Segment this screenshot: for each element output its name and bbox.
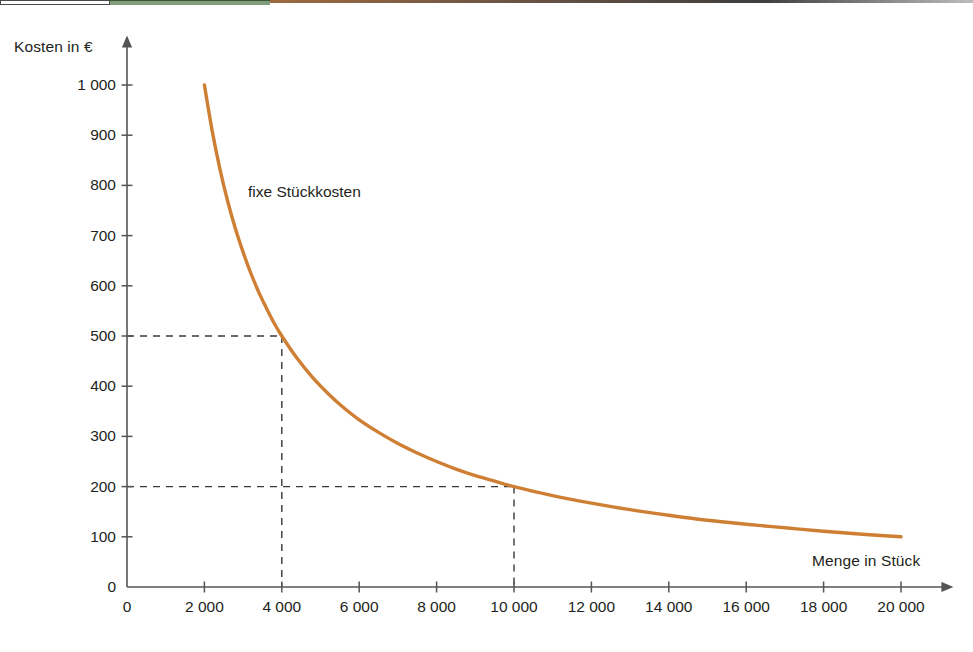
series-line-fixe-stueckkosten bbox=[204, 85, 901, 537]
x-tick-label: 18 000 bbox=[800, 598, 847, 616]
y-tick-label: 900 bbox=[20, 126, 116, 144]
y-tick-label: 0 bbox=[20, 578, 116, 596]
y-tick-label: 400 bbox=[20, 377, 116, 395]
y-tick-label: 100 bbox=[20, 528, 116, 546]
guide-lines-layer bbox=[127, 336, 514, 587]
y-tick-label: 200 bbox=[20, 478, 116, 496]
chart-figure: Kosten in € Menge in Stück fixe Stückkos… bbox=[0, 0, 973, 652]
x-tick-label: 14 000 bbox=[645, 598, 692, 616]
y-tick-label: 1 000 bbox=[20, 76, 116, 94]
x-tick-label: 0 bbox=[123, 598, 132, 616]
x-tick-label: 20 000 bbox=[877, 598, 924, 616]
x-tick-label: 6 000 bbox=[340, 598, 379, 616]
x-tick-label: 12 000 bbox=[568, 598, 615, 616]
x-tick-label: 16 000 bbox=[722, 598, 769, 616]
tick-marks-layer bbox=[122, 85, 902, 593]
y-tick-label: 500 bbox=[20, 327, 116, 345]
y-tick-label: 800 bbox=[20, 176, 116, 194]
x-axis-title: Menge in Stück bbox=[812, 552, 920, 570]
x-tick-label: 10 000 bbox=[490, 598, 537, 616]
x-tick-label: 4 000 bbox=[262, 598, 301, 616]
y-tick-label: 600 bbox=[20, 277, 116, 295]
axis-layer bbox=[127, 46, 943, 587]
series-annotation-label: fixe Stückkosten bbox=[248, 183, 361, 201]
y-tick-label: 700 bbox=[20, 227, 116, 245]
x-tick-label: 8 000 bbox=[417, 598, 456, 616]
y-tick-label: 300 bbox=[20, 427, 116, 445]
series-layer bbox=[204, 85, 901, 537]
y-axis-title: Kosten in € bbox=[14, 38, 93, 56]
x-tick-label: 2 000 bbox=[185, 598, 224, 616]
